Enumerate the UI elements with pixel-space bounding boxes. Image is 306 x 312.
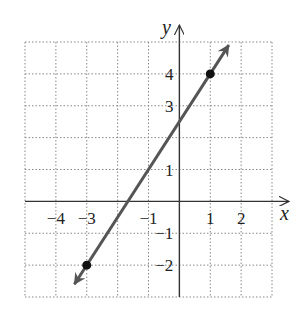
y-tick-label: −1 [155,224,173,243]
y-axis-label: y [160,16,171,39]
x-tick-label: 2 [237,209,246,228]
data-series [74,45,228,284]
y-tick-label: 1 [165,161,174,180]
y-tick-label: 4 [165,65,174,84]
x-tick-label: 1 [206,209,215,228]
data-point [206,69,215,78]
tick-labels: −4−3−112431−1−2 [47,65,246,275]
coordinate-plane: −4−3−112431−1−2 x y [0,0,306,312]
y-tick-label: 3 [165,97,174,116]
x-axis-label: x [279,202,289,224]
x-tick-label: −4 [47,209,66,228]
y-tick-label: −2 [155,256,173,275]
x-tick-label: −3 [78,209,96,228]
